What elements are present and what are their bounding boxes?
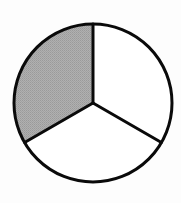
- fraction-circle-diagram: [0, 0, 181, 203]
- diagram-canvas: [0, 0, 181, 203]
